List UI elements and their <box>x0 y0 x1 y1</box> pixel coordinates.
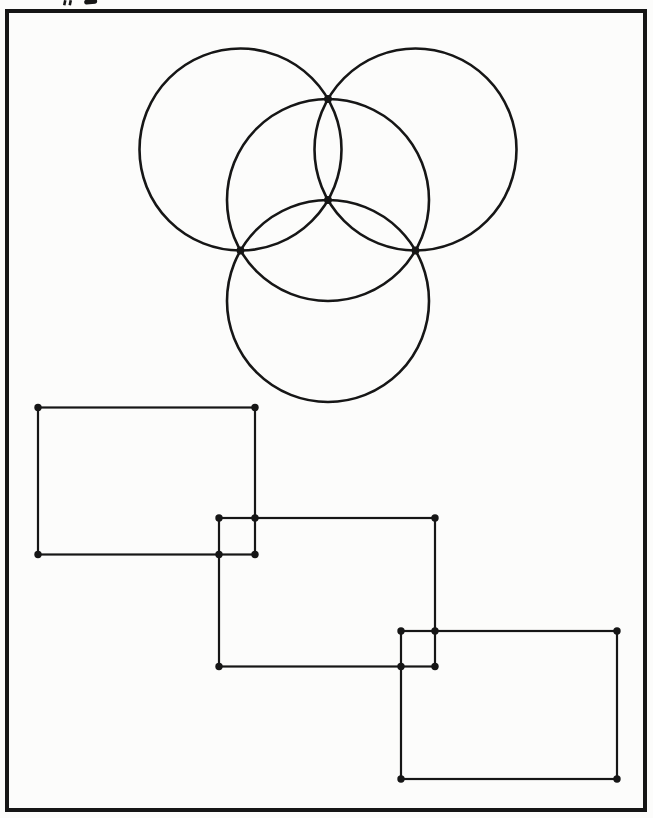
left-rectangle <box>38 408 255 555</box>
intersection-dot <box>324 196 332 204</box>
rectangles-figure <box>34 404 620 783</box>
figure-canvas <box>0 0 653 818</box>
crossing-dot <box>431 627 438 634</box>
corner-dot <box>431 663 438 670</box>
middle-rectangle <box>219 518 435 667</box>
intersection-dot <box>412 247 420 255</box>
border-frame <box>7 11 645 810</box>
corner-dot <box>251 551 258 558</box>
border-frame-layer <box>7 11 645 810</box>
circles-figure <box>140 49 517 403</box>
corner-dot <box>397 627 404 634</box>
cropped-glyph-tick <box>68 0 72 5</box>
corner-dot <box>215 514 222 521</box>
right-rectangle <box>401 631 617 779</box>
corner-dot <box>613 627 620 634</box>
intersection-dot <box>237 247 245 255</box>
corner-dot <box>215 663 222 670</box>
corner-dot <box>431 514 438 521</box>
cropped-glyph-tick <box>63 0 67 5</box>
corner-dot <box>613 775 620 782</box>
intersection-dot <box>324 95 332 103</box>
crossing-dot <box>397 663 404 670</box>
scanned-page <box>0 0 653 818</box>
corner-dot <box>34 404 41 411</box>
corner-dot <box>251 404 258 411</box>
corner-dot <box>397 775 404 782</box>
cropped-glyph-blob <box>84 0 97 5</box>
crossing-dot <box>215 551 222 558</box>
corner-dot <box>34 551 41 558</box>
crossing-dot <box>251 514 258 521</box>
cropped-text-fragment <box>63 0 97 5</box>
